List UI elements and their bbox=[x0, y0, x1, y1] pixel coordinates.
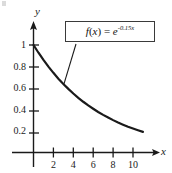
y-tick-label: 1 bbox=[2, 40, 26, 50]
x-axis-label: x bbox=[161, 146, 166, 157]
exponential-decay-figure: f(x) = e-0.15x y x 0.20.40.60.81 246810 bbox=[0, 0, 172, 173]
y-axis-label: y bbox=[35, 6, 40, 17]
x-tick-label: 10 bbox=[123, 160, 143, 170]
annotation-leader-line bbox=[64, 44, 76, 84]
y-tick-label: 0.6 bbox=[2, 83, 26, 93]
x-tick-label: 4 bbox=[63, 160, 83, 170]
x-tick-label: 8 bbox=[103, 160, 123, 170]
formula-label-box: f(x) = e-0.15x bbox=[65, 21, 155, 42]
decay-curve bbox=[34, 45, 143, 132]
x-tick-label: 6 bbox=[83, 160, 103, 170]
y-tick-label: 0.8 bbox=[2, 62, 26, 72]
y-tick-label: 0.4 bbox=[2, 105, 26, 115]
x-tick-label: 2 bbox=[43, 160, 63, 170]
formula-text: f(x) = e-0.15x bbox=[86, 26, 134, 37]
y-axis bbox=[30, 21, 37, 167]
y-tick-label: 0.2 bbox=[2, 126, 26, 136]
formula-exponent: -0.15x bbox=[118, 24, 134, 31]
formula-equals: = bbox=[101, 25, 113, 37]
